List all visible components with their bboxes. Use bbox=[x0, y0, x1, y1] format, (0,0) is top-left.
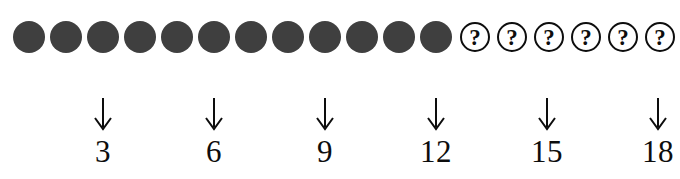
question-mark-glyph: ? bbox=[573, 24, 599, 50]
filled-circle-icon bbox=[161, 21, 193, 53]
count-marker: 3 bbox=[63, 96, 143, 179]
filled-circle-icon bbox=[13, 21, 45, 53]
counting-sequence-figure: ?????? 369121518 bbox=[0, 0, 680, 179]
unknown-dot: ? bbox=[566, 0, 603, 78]
filled-circle-icon bbox=[420, 21, 452, 53]
count-label: 12 bbox=[396, 134, 476, 170]
count-label: 18 bbox=[618, 134, 680, 170]
count-label: 9 bbox=[285, 134, 365, 170]
filled-dot bbox=[196, 0, 233, 78]
question-mark-circle-icon: ? bbox=[534, 22, 564, 52]
down-arrow-icon bbox=[396, 96, 476, 132]
question-mark-glyph: ? bbox=[499, 24, 525, 50]
filled-circle-icon bbox=[346, 21, 378, 53]
filled-circle-icon bbox=[383, 21, 415, 53]
filled-dot bbox=[270, 0, 307, 78]
question-mark-glyph: ? bbox=[462, 24, 488, 50]
down-arrow-icon bbox=[618, 96, 680, 132]
filled-dot bbox=[85, 0, 122, 78]
filled-dot bbox=[122, 0, 159, 78]
filled-dot bbox=[48, 0, 85, 78]
question-mark-circle-icon: ? bbox=[497, 22, 527, 52]
count-label: 15 bbox=[507, 134, 587, 170]
filled-circle-icon bbox=[87, 21, 119, 53]
filled-dot bbox=[307, 0, 344, 78]
filled-circle-icon bbox=[309, 21, 341, 53]
question-mark-circle-icon: ? bbox=[645, 22, 675, 52]
down-arrow-icon bbox=[507, 96, 587, 132]
question-mark-circle-icon: ? bbox=[460, 22, 490, 52]
circle-row: ?????? bbox=[0, 0, 680, 78]
down-arrow-icon bbox=[63, 96, 143, 132]
count-marker: 9 bbox=[285, 96, 365, 179]
down-arrow-icon bbox=[174, 96, 254, 132]
filled-circle-icon bbox=[50, 21, 82, 53]
unknown-dot: ? bbox=[529, 0, 566, 78]
question-mark-circle-icon: ? bbox=[571, 22, 601, 52]
count-marker: 15 bbox=[507, 96, 587, 179]
unknown-dot: ? bbox=[603, 0, 640, 78]
filled-dot bbox=[11, 0, 48, 78]
question-mark-glyph: ? bbox=[610, 24, 636, 50]
count-marker: 18 bbox=[618, 96, 680, 179]
unknown-dot: ? bbox=[455, 0, 492, 78]
filled-dot bbox=[159, 0, 196, 78]
unknown-dot: ? bbox=[640, 0, 677, 78]
question-mark-glyph: ? bbox=[647, 24, 673, 50]
count-marker: 12 bbox=[396, 96, 476, 179]
down-arrow-icon bbox=[285, 96, 365, 132]
filled-dot bbox=[344, 0, 381, 78]
filled-circle-icon bbox=[198, 21, 230, 53]
filled-circle-icon bbox=[124, 21, 156, 53]
question-mark-circle-icon: ? bbox=[608, 22, 638, 52]
count-label: 3 bbox=[63, 134, 143, 170]
filled-circle-icon bbox=[235, 21, 267, 53]
filled-dot bbox=[233, 0, 270, 78]
filled-circle-icon bbox=[272, 21, 304, 53]
question-mark-glyph: ? bbox=[536, 24, 562, 50]
count-label: 6 bbox=[174, 134, 254, 170]
unknown-dot: ? bbox=[492, 0, 529, 78]
count-marker: 6 bbox=[174, 96, 254, 179]
filled-dot bbox=[418, 0, 455, 78]
filled-dot bbox=[381, 0, 418, 78]
